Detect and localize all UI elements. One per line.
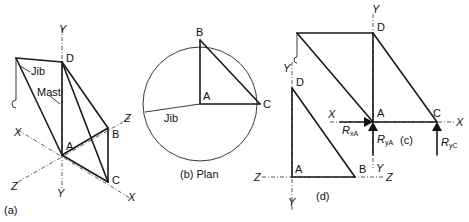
z-left-label: Z <box>253 171 262 183</box>
y-bottom-label: Y <box>376 162 384 174</box>
reaction-rya: R yA <box>377 133 394 147</box>
y-top-label: Y <box>59 23 67 35</box>
panel-a-isometric: Jib Mast D A B C Y Y X X Z Z (a) <box>4 23 136 216</box>
point-b: B <box>196 26 203 38</box>
x-right-label: X <box>455 116 464 128</box>
y-bottom-label: Y <box>57 187 65 199</box>
panel-b-plan: B A C Jib (b) Plan <box>143 26 271 180</box>
svg-text:xA: xA <box>350 130 359 137</box>
z-right-label: Z <box>385 171 394 183</box>
x-left-label: X <box>327 108 336 120</box>
x-axis <box>18 130 130 198</box>
caption-b: (b) Plan <box>180 168 219 180</box>
point-d: D <box>296 76 304 88</box>
y-top-label: Y <box>283 62 291 74</box>
point-a: A <box>66 140 74 152</box>
caption-c: (c) <box>400 134 413 146</box>
z-right-label: Z <box>123 112 132 124</box>
point-c: C <box>433 107 441 119</box>
svg-text:R: R <box>441 136 449 148</box>
reaction-rxa: R xA <box>342 124 359 137</box>
mast-label: Mast <box>37 86 61 98</box>
jib-label: Jib <box>164 112 178 124</box>
point-a: A <box>203 90 211 102</box>
point-c: C <box>112 174 120 186</box>
point-b: B <box>359 163 366 175</box>
x-left-label: X <box>13 126 22 138</box>
y-top-label: Y <box>372 3 380 15</box>
point-a: A <box>295 163 303 175</box>
y-bottom-label: Y <box>288 196 296 208</box>
svg-text:R: R <box>377 133 385 145</box>
panel-c-elevation: A D C Y Y X X R xA R yA (c) R yC <box>294 3 464 174</box>
caption-d: (d) <box>316 190 329 202</box>
jib-label: Jib <box>31 65 45 77</box>
point-d: D <box>66 52 74 64</box>
structural-diagram: Jib Mast D A B C Y Y X X Z Z (a) B A C J… <box>0 0 469 222</box>
svg-text:yC: yC <box>449 142 458 150</box>
x-right-label: X <box>127 191 136 203</box>
svg-text:R: R <box>342 124 350 136</box>
svg-text:yA: yA <box>385 139 394 147</box>
point-a: A <box>377 107 385 119</box>
reaction-ryc: R yC <box>441 136 458 150</box>
point-c: C <box>263 98 271 110</box>
point-b: B <box>112 128 119 140</box>
z-left-label: Z <box>10 180 19 192</box>
point-d: D <box>377 21 385 33</box>
caption-a: (a) <box>4 204 17 216</box>
